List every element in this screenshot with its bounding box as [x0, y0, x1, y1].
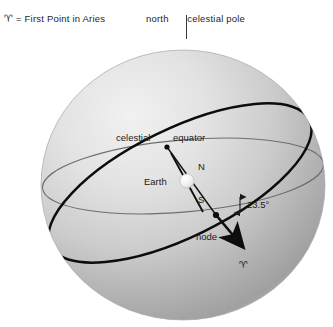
earth-body	[180, 174, 194, 188]
south-pole-label: S	[198, 194, 204, 205]
celestial-sphere-svg: celestial equator Earth N S node 23.5° ♈	[0, 0, 333, 327]
equator-label: equator	[173, 132, 205, 143]
earth-label: Earth	[144, 176, 167, 187]
tilt-angle-label: 23.5°	[247, 199, 269, 210]
north-pole-label: N	[198, 161, 205, 172]
celestial-label: celestial	[116, 132, 150, 143]
node-label: node	[196, 231, 217, 242]
aries-point-symbol-icon: ♈	[239, 259, 248, 270]
celestial-equator-marker-dot	[164, 144, 169, 149]
diagram-canvas: ♈ = First Point in Aries north celestial…	[0, 0, 333, 327]
